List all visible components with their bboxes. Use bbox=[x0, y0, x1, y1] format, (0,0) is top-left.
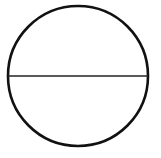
diagram-canvas bbox=[0, 0, 161, 158]
